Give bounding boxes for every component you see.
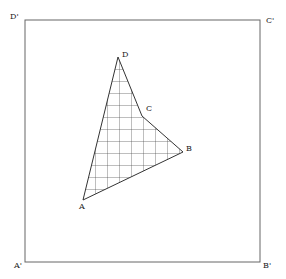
- label-a: A: [78, 202, 85, 211]
- diagram-canvas: D' C' A' B' D C B A: [0, 0, 286, 279]
- label-a-prime: A': [13, 261, 22, 270]
- label-d-prime: D': [10, 12, 19, 21]
- label-d: D: [122, 50, 128, 59]
- label-b: B: [186, 144, 192, 153]
- quadrilateral-ABCD: [60, 40, 200, 220]
- label-c: C: [146, 104, 152, 113]
- label-c-prime: C': [266, 16, 274, 25]
- label-b-prime: B': [263, 261, 271, 270]
